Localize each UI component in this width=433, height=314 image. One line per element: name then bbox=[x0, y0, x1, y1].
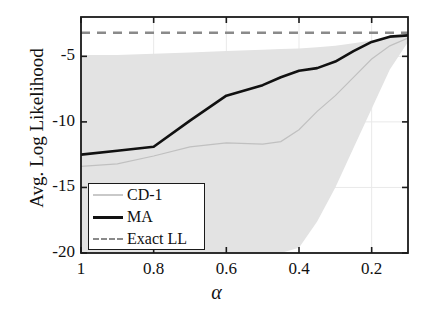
chart-legend: CD-1 MA Exact LL bbox=[88, 183, 205, 250]
legend-swatch-cd-1 bbox=[89, 184, 127, 206]
legend-swatch-exact-ll bbox=[89, 228, 127, 250]
x-tick-label: 0.4 bbox=[274, 259, 324, 279]
legend-item-ma: MA bbox=[89, 206, 204, 228]
legend-label-ma: MA bbox=[127, 208, 153, 226]
legend-swatch-ma bbox=[89, 206, 127, 228]
y-tick-label: -5 bbox=[33, 45, 75, 65]
x-tick-label: 0.2 bbox=[347, 259, 397, 279]
y-tick-label: -15 bbox=[33, 176, 75, 196]
legend-label-cd-1: CD-1 bbox=[127, 186, 163, 204]
x-tick-label: 1 bbox=[56, 259, 106, 279]
faint-line-icon bbox=[93, 194, 123, 196]
x-axis-label: α bbox=[0, 281, 433, 304]
legend-item-cd-1: CD-1 bbox=[89, 184, 204, 206]
legend-item-exact-ll: Exact LL bbox=[89, 228, 204, 250]
y-tick-label: -10 bbox=[33, 111, 75, 131]
figure-container: Avg. Log Likelihood α -5-10-15-20 10.80.… bbox=[0, 0, 433, 314]
legend-label-exact-ll: Exact LL bbox=[127, 230, 187, 248]
solid-line-icon bbox=[93, 216, 123, 219]
dashed-line-icon bbox=[93, 238, 123, 240]
x-tick-label: 0.8 bbox=[129, 259, 179, 279]
x-tick-label: 0.6 bbox=[201, 259, 251, 279]
